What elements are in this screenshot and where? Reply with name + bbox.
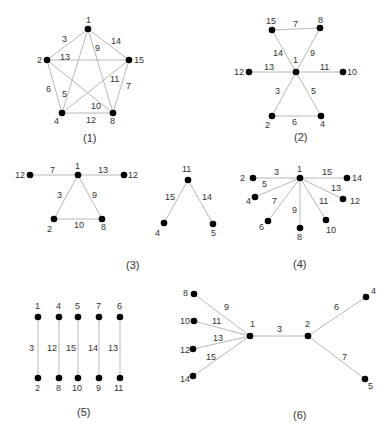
edge-weight-label: 13 — [331, 183, 341, 193]
graph-node — [252, 194, 259, 201]
graph-node — [190, 346, 197, 353]
node-label: 4 — [54, 116, 59, 126]
edge-weight-label: 7 — [126, 81, 131, 91]
edge-weight-label: 5 — [262, 179, 267, 189]
node-label: 2 — [305, 319, 310, 329]
node-label: 1 — [75, 161, 80, 171]
graph-node — [121, 172, 128, 179]
graph-node — [96, 375, 103, 382]
node-label: 14 — [180, 374, 190, 384]
edge-weight-label: 3 — [274, 167, 279, 177]
graph-caption: (1) — [83, 132, 96, 144]
graph-node — [161, 220, 168, 227]
node-label: 2 — [240, 173, 245, 183]
graph-node — [27, 172, 34, 179]
graph-node — [59, 110, 66, 117]
graph-node — [250, 175, 257, 182]
graph-node — [75, 172, 82, 179]
node-label: 2 — [37, 55, 42, 65]
background — [0, 0, 389, 434]
graph-node — [56, 314, 63, 321]
graph-node — [246, 69, 253, 76]
edge-weight-label: 3 — [275, 86, 280, 96]
edge-weight-label: 9 — [292, 205, 297, 215]
node-label: 12 — [234, 67, 244, 77]
node-label: 5 — [75, 301, 80, 311]
node-label: 15 — [134, 55, 144, 65]
node-label: 6 — [259, 222, 264, 232]
node-label: 4 — [56, 301, 61, 311]
graph-caption: (6) — [293, 409, 306, 421]
node-label: 6 — [117, 301, 122, 311]
graph-node — [269, 27, 276, 34]
graph-node — [191, 291, 198, 298]
edge-weight-label: 15 — [206, 352, 216, 362]
edge-weight-label: 13 — [264, 62, 274, 72]
graph-node — [210, 221, 217, 228]
edge-weight-label: 12 — [47, 343, 57, 353]
edge-weight-label: 9 — [95, 43, 100, 53]
edge-weight-label: 9 — [310, 48, 315, 58]
edge-weight-label: 11 — [110, 74, 119, 84]
edge-weight-label: 9 — [92, 190, 97, 200]
edge-weight-label: 7 — [293, 19, 298, 29]
node-label: 7 — [96, 301, 101, 311]
node-label: 10 — [347, 67, 357, 77]
node-label: 1 — [297, 164, 302, 174]
edge-weight-label: 6 — [46, 84, 51, 94]
edge-weight-label: 13 — [98, 165, 108, 175]
graph-caption: (2) — [294, 131, 307, 143]
node-label: 1 — [35, 301, 40, 311]
node-label: 10 — [180, 316, 190, 326]
edge-weight-label: 11 — [212, 316, 221, 326]
edge-weight-label: 9 — [224, 302, 229, 312]
edge-weight-label: 14 — [273, 48, 283, 58]
graph-node — [269, 113, 276, 120]
graph-node — [293, 69, 300, 76]
edge-weight-label: 12 — [86, 115, 96, 125]
edge-weight-label: 10 — [74, 220, 84, 230]
graph-node — [96, 314, 103, 321]
graph-diagram-canvas: 314139567111012121548(1)7149131135615811… — [0, 0, 389, 434]
node-label: 11 — [182, 164, 191, 174]
graph-node — [185, 177, 192, 184]
node-label: 5 — [211, 228, 216, 238]
edge-weight-label: 3 — [62, 34, 67, 44]
graph-node — [85, 26, 92, 33]
edge-weight-label: 11 — [320, 62, 329, 72]
node-label: 8 — [183, 288, 188, 298]
edge-weight-label: 3 — [57, 190, 62, 200]
edge-weight-label: 14 — [88, 343, 98, 353]
node-label: 1 — [293, 55, 298, 65]
edge-weight-label: 6 — [334, 302, 339, 312]
edge-weight-label: 5 — [311, 86, 316, 96]
edge-weight-label: 7 — [342, 352, 347, 362]
graph-node — [297, 175, 304, 182]
node-label: 8 — [318, 15, 323, 25]
edge-weight-label: 3 — [277, 324, 282, 334]
edge-weight-label: 15 — [322, 167, 332, 177]
graph-node — [305, 333, 312, 340]
node-label: 8 — [56, 383, 61, 393]
node-label: 12 — [15, 170, 25, 180]
graph-node — [340, 69, 347, 76]
graph-node — [191, 318, 198, 325]
node-label: 4 — [320, 119, 325, 129]
edge-weight-label: 10 — [91, 101, 101, 111]
graph-caption: (5) — [77, 406, 90, 418]
graph-node — [35, 314, 42, 321]
edge-weight-label: 3 — [29, 343, 34, 353]
edge-weight-label: 7 — [50, 165, 55, 175]
node-label: 15 — [266, 16, 276, 26]
node-label: 2 — [47, 224, 52, 234]
node-label: 2 — [265, 120, 270, 130]
graph-node — [190, 373, 197, 380]
graph-node — [247, 333, 254, 340]
graph-node — [323, 217, 330, 224]
node-label: 8 — [101, 222, 106, 232]
graph-node — [35, 375, 42, 382]
edge-weight-label: 14 — [202, 192, 212, 202]
node-label: 10 — [326, 225, 336, 235]
node-label: 12 — [128, 170, 138, 180]
node-label: 9 — [96, 383, 101, 393]
